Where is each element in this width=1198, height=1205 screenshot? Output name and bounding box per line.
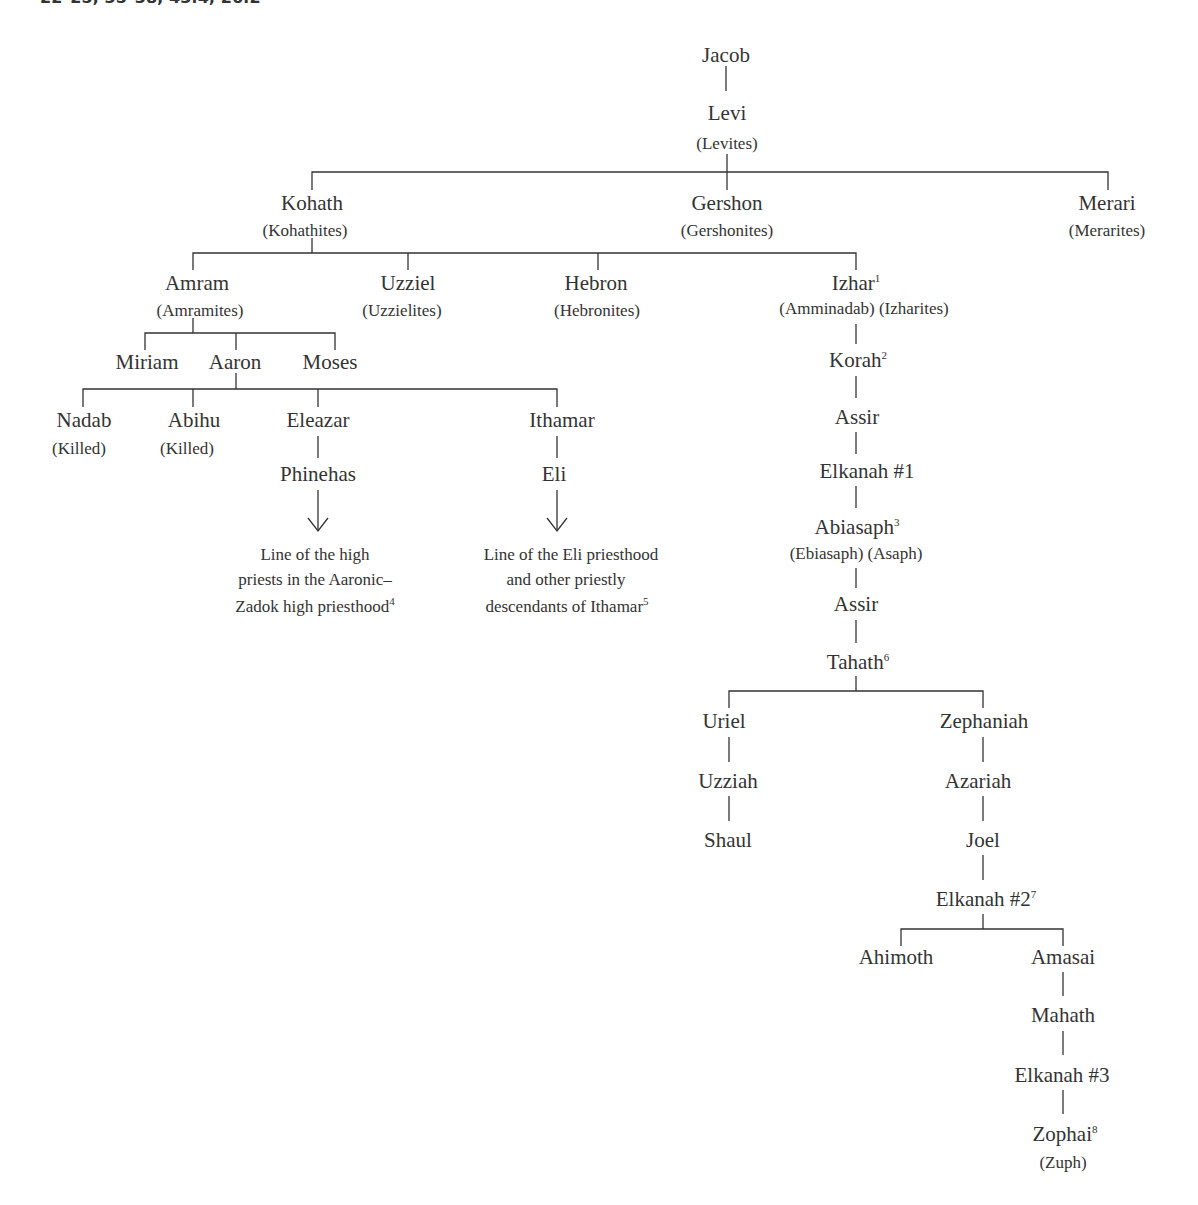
node-izhar: Izhar1 [832,271,881,295]
node-miriam: Miriam [116,350,179,374]
node-nadab: Nadab [57,408,112,432]
node-hebron-alt: (Hebronites) [554,301,640,320]
genealogy-diagram: Jacob Levi (Levites) Kohath (Kohathites)… [0,0,1198,1205]
node-shaul: Shaul [704,828,752,852]
node-aaron: Aaron [209,350,262,374]
node-zephaniah: Zephaniah [940,709,1029,733]
note-eli-line-2: and other priestly [507,570,626,589]
note-phinehas-line-2: priests in the Aaronic– [238,570,392,589]
node-nadab-alt: (Killed) [52,439,106,458]
note-eli-line-3: descendants of Ithamar5 [485,595,649,616]
node-joel: Joel [966,828,1000,852]
node-levi-alt: (Levites) [696,134,757,153]
node-uriel: Uriel [702,709,745,733]
node-hebron: Hebron [565,271,628,295]
node-merari-alt: (Merarites) [1069,221,1145,240]
node-moses: Moses [303,350,358,374]
node-assir-1: Assir [835,405,879,429]
node-amasai: Amasai [1031,945,1095,969]
node-uzziel-alt: (Uzzielites) [362,301,441,320]
node-jacob: Jacob [702,43,750,67]
node-korah: Korah2 [829,348,887,372]
node-elkanah-1: Elkanah #1 [819,459,914,483]
node-gershon: Gershon [691,191,763,215]
note-phinehas-line-3: Zadok high priesthood4 [235,595,395,616]
node-abiasaph-alt: (Ebiasaph) (Asaph) [790,544,923,563]
node-kohath: Kohath [281,191,343,215]
node-uzziel: Uzziel [381,271,436,295]
node-zophai: Zophai8 [1033,1122,1098,1146]
node-assir-2: Assir [834,592,878,616]
node-abiasaph: Abiasaph3 [815,515,900,539]
node-levi: Levi [708,101,747,125]
node-gershon-alt: (Gershonites) [681,221,774,240]
node-ahimoth: Ahimoth [859,945,934,969]
node-amram: Amram [165,271,229,295]
node-kohath-alt: (Kohathites) [263,221,348,240]
node-zophai-alt: (Zuph) [1039,1153,1086,1172]
node-phinehas: Phinehas [280,462,356,486]
node-elkanah-2: Elkanah #27 [936,887,1037,911]
connector-lines [83,66,1108,1114]
node-azariah: Azariah [945,769,1012,793]
node-merari: Merari [1078,191,1135,215]
note-phinehas-line-1: Line of the high [260,545,370,564]
node-eli: Eli [542,462,567,486]
node-tahath: Tahath6 [827,650,890,674]
node-abihu: Abihu [168,408,221,432]
note-eli-line-1: Line of the Eli priesthood [484,545,659,564]
node-ithamar: Ithamar [529,408,594,432]
node-abihu-alt: (Killed) [160,439,214,458]
node-elkanah-3: Elkanah #3 [1014,1063,1109,1087]
node-amram-alt: (Amramites) [157,301,244,320]
node-izhar-alt: (Amminadab) (Izharites) [779,299,948,318]
node-mahath: Mahath [1031,1003,1096,1027]
node-uzziah: Uzziah [698,769,758,793]
node-eleazar: Eleazar [287,408,350,432]
